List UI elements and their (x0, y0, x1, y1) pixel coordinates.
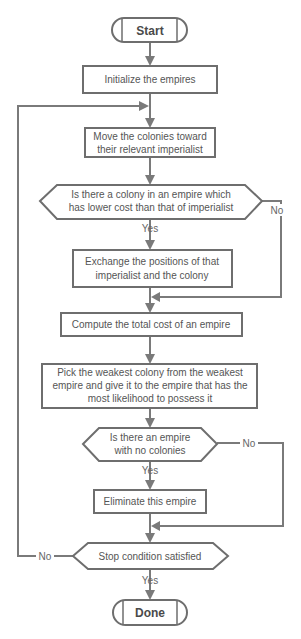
node-pick-weakest: Pick the weakest colony from the weakest… (42, 364, 257, 408)
node-initialize: Initialize the empires (83, 66, 217, 93)
node-move-colonies: Move the colonies toward their relevant … (85, 128, 215, 157)
arrow-head-icon (145, 56, 155, 66)
compute-label: Compute the total cost of an empire (72, 319, 231, 330)
pick-label-line-1: Pick the weakest colony from the weakest (57, 367, 243, 378)
initialize-label: Initialize the empires (104, 74, 195, 85)
node-done: Done (113, 600, 187, 625)
pick-label-line-2: empire and give it to the empire that ha… (52, 380, 248, 391)
arrow-head-icon (145, 590, 155, 600)
node-decision-lower-cost: Is there a colony in an empire which has… (40, 185, 262, 219)
arrow-head-icon (145, 480, 155, 490)
arrow-head-icon (145, 533, 155, 543)
decision3-label: Stop condition satisfied (99, 551, 202, 562)
node-exchange: Exchange the positions of that imperiali… (73, 250, 232, 287)
arrow-head-icon (145, 418, 155, 428)
arrow-head-icon (151, 521, 160, 531)
arrow-head-icon (145, 240, 155, 250)
arrow-head-icon (145, 118, 155, 128)
decision1-label-line-2: has lower cost than that of imperialist (69, 202, 234, 213)
edge-label-no-3: No (39, 551, 52, 562)
exchange-label-line-2: imperialist and the colony (96, 270, 209, 281)
exchange-label-line-1: Exchange the positions of that (85, 256, 219, 267)
arrow-head-icon (145, 303, 155, 313)
node-decision-stop: Stop condition satisfied (73, 543, 228, 569)
eliminate-label: Eliminate this empire (104, 496, 197, 507)
node-compute: Compute the total cost of an empire (61, 313, 242, 336)
node-eliminate: Eliminate this empire (94, 490, 206, 513)
edge-label-yes-3: Yes (142, 575, 158, 586)
move-label-line-1: Move the colonies toward (93, 131, 206, 142)
move-label-line-2: their relevant imperialist (97, 144, 203, 155)
edge-label-no-1: No (271, 205, 284, 216)
done-label: Done (135, 606, 165, 620)
start-label: Start (136, 24, 163, 38)
edge-label-yes-2: Yes (142, 465, 158, 476)
edge-label-no-2: No (243, 438, 256, 449)
node-start: Start (112, 18, 187, 42)
pick-label-line-3: most likelihood to possess it (88, 393, 213, 404)
arrow-head-icon (139, 101, 149, 111)
node-decision-no-colonies: Is there an empire with no colonies (83, 428, 217, 461)
flowchart: Yes No Yes No No Yes Start Initialize th… (0, 0, 301, 639)
arrow-head-icon (151, 292, 160, 302)
decision2-label-line-2: with no colonies (113, 445, 185, 456)
arrow-head-icon (145, 175, 155, 185)
decision1-label-line-1: Is there a colony in an empire which (71, 189, 231, 200)
edge-label-yes-1: Yes (142, 223, 158, 234)
decision2-label-line-1: Is there an empire (110, 432, 191, 443)
arrow-head-icon (145, 354, 155, 364)
